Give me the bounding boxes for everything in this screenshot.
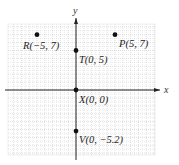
x-axis-arrow-icon xyxy=(154,88,160,92)
y-axis-arrow-icon xyxy=(74,18,78,24)
point-label-t: T(0, 5) xyxy=(79,54,108,66)
y-axis-label: y xyxy=(72,5,78,16)
point-r xyxy=(35,32,40,37)
point-label-p: P(5, 7) xyxy=(118,38,149,50)
coordinate-plane: x y R(−5, 7)P(5, 7)T(0, 5)X(0, 0)V(0, −5… xyxy=(0,0,179,165)
x-axis-label: x xyxy=(163,84,169,95)
point-label-v: V(0, −5.2) xyxy=(79,134,124,146)
point-v xyxy=(74,129,79,134)
point-t xyxy=(74,48,79,53)
point-label-r: R(−5, 7) xyxy=(22,40,60,52)
point-x xyxy=(74,88,79,93)
data-points: R(−5, 7)P(5, 7)T(0, 5)X(0, 0)V(0, −5.2) xyxy=(22,32,149,146)
point-label-x: X(0, 0) xyxy=(78,94,109,106)
point-p xyxy=(113,32,118,37)
